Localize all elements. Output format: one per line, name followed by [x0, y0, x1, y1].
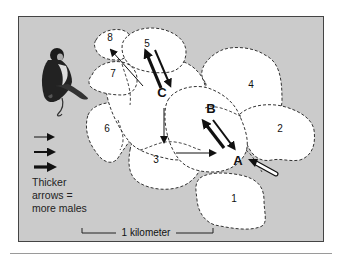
range-label-3: 3 — [153, 154, 159, 165]
group-label-a: A — [233, 153, 243, 168]
scale-bar: 1 kilometer — [82, 227, 213, 238]
diagram-canvas: 8 5 7 4 2 6 3 1 C B A — [0, 0, 342, 256]
range-label-5: 5 — [144, 38, 150, 49]
range-label-1: 1 — [231, 193, 237, 204]
range-label-8: 8 — [107, 32, 113, 43]
range-label-7: 7 — [110, 68, 116, 79]
range-label-4: 4 — [248, 79, 254, 90]
range-label-2: 2 — [277, 123, 283, 134]
range-label-6: 6 — [104, 123, 110, 134]
legend-text-line-1: Thicker — [32, 176, 67, 188]
scale-bar-label: 1 kilometer — [122, 227, 172, 238]
legend: Thicker arrows = more males — [32, 137, 87, 214]
range-5 — [122, 28, 186, 73]
group-label-b: B — [206, 101, 215, 116]
legend-text-line-3: more males — [32, 202, 87, 214]
monkey-illustration — [42, 48, 88, 116]
legend-text-line-2: arrows = — [32, 189, 73, 201]
